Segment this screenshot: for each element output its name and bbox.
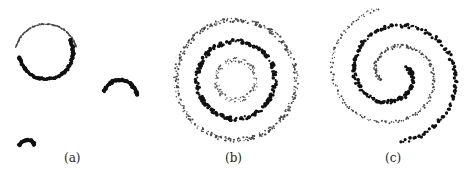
panel-c-points xyxy=(330,8,459,143)
panel-a-points xyxy=(15,23,139,147)
caption-c: (c) xyxy=(385,151,401,165)
caption-a: (a) xyxy=(64,151,81,165)
caption-b: (b) xyxy=(225,151,242,165)
panel-b-points xyxy=(173,18,299,143)
